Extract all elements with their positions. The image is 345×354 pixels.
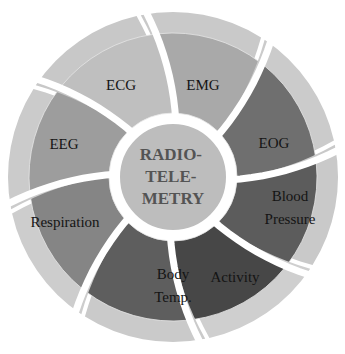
- segment-label-line: Blood: [272, 188, 309, 204]
- segment-label-line: Body: [157, 266, 190, 282]
- segment-label: EEG: [49, 136, 78, 152]
- segment-label-line: EMG: [186, 77, 220, 93]
- center-label: RADIO- TELE- METRY: [140, 145, 207, 208]
- segment-label-line: Activity: [210, 269, 260, 285]
- radiotelemetry-wheel: EMGEOGBloodPressureActivityBodyTemp.Resp…: [0, 0, 345, 354]
- segment-label-line: EEG: [49, 136, 78, 152]
- center-line-2: TELE-: [145, 167, 196, 186]
- segment-label: EOG: [259, 135, 290, 151]
- center-line-3: METRY: [142, 189, 205, 208]
- segment-label: Activity: [210, 269, 260, 285]
- segment-label-line: EOG: [259, 135, 290, 151]
- segment-label-line: Pressure: [265, 211, 316, 227]
- segment-label: EMG: [186, 77, 220, 93]
- segment-label-line: ECG: [106, 77, 136, 93]
- center-line-1: RADIO-: [140, 145, 203, 164]
- segment-label-line: Temp.: [154, 289, 192, 305]
- segment-label: Respiration: [30, 214, 100, 230]
- segment-label-line: Respiration: [30, 214, 100, 230]
- segment-label: ECG: [106, 77, 136, 93]
